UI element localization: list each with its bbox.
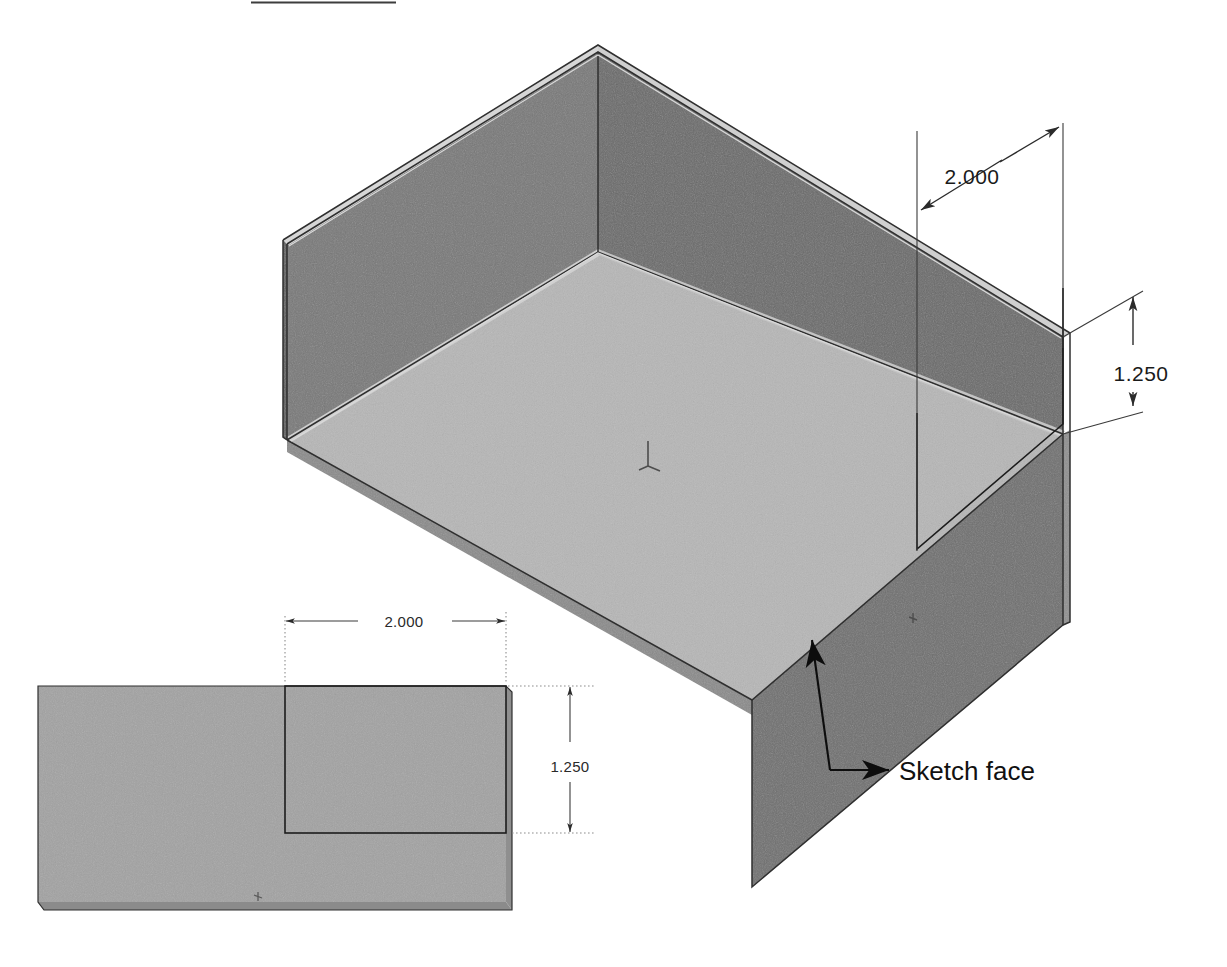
iso-width-dim-label: 2.000 — [944, 165, 999, 188]
flat-face-bottom-edge — [38, 902, 512, 910]
flat-height-dim: 1.250 — [508, 686, 594, 833]
iso-height-dim-label: 1.250 — [1113, 362, 1168, 385]
flat-width-dim-label: 2.000 — [384, 613, 423, 630]
flat-height-dim-label: 1.250 — [550, 758, 589, 775]
drawing-canvas: 2.000 1.250 Sketch face — [0, 0, 1227, 967]
iso-height-dim: 1.250 — [1063, 291, 1169, 434]
sketch-face-label: Sketch face — [899, 756, 1035, 786]
flat-face-right-edge — [506, 686, 512, 910]
flat-face-view — [38, 686, 512, 910]
flat-face-fill — [38, 686, 506, 902]
flat-width-dim: 2.000 — [285, 612, 506, 684]
technical-drawing-svg: 2.000 1.250 Sketch face — [0, 0, 1227, 967]
